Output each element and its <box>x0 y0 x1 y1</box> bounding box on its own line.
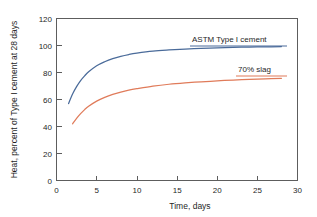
series-label-astm-type-i-cement: ASTM Type I cement <box>192 35 267 44</box>
y-tick-label-40: 40 <box>43 123 52 132</box>
series-line-70-percent-slag <box>73 78 282 124</box>
y-tick-labels: 120 100 80 60 40 20 0 <box>39 15 53 186</box>
y-tick-label-80: 80 <box>43 69 52 78</box>
x-axis-title: Time, days <box>169 201 210 211</box>
series-line-astm-type-i-cement <box>69 47 282 104</box>
x-tick-label-5: 5 <box>95 186 100 195</box>
x-tick-label-15: 15 <box>173 186 182 195</box>
y-tick-label-60: 60 <box>43 96 52 105</box>
y-tick-label-0: 0 <box>48 177 53 186</box>
data-series-group <box>69 47 282 124</box>
y-tick-label-120: 120 <box>39 15 53 24</box>
x-tick-label-10: 10 <box>133 186 142 195</box>
chart-figure: 120 100 80 60 40 20 0 0 5 10 15 20 25 30… <box>0 0 317 217</box>
series-annotations: ASTM Type I cement 70% slag <box>192 35 271 74</box>
x-tick-label-25: 25 <box>253 186 262 195</box>
y-tick-label-100: 100 <box>39 42 53 51</box>
x-tick-label-20: 20 <box>213 186 222 195</box>
series-label-70-percent-slag: 70% slag <box>238 65 271 74</box>
y-axis-title: Heat, percent of Type I cement at 28 day… <box>9 21 19 179</box>
x-axis-ticks <box>57 176 298 181</box>
x-tick-label-30: 30 <box>293 186 302 195</box>
y-axis-ticks <box>57 19 62 181</box>
y-tick-label-20: 20 <box>43 150 52 159</box>
x-tick-labels: 0 5 10 15 20 25 30 <box>54 186 302 195</box>
x-tick-label-0: 0 <box>54 186 59 195</box>
chart-canvas: 120 100 80 60 40 20 0 0 5 10 15 20 25 30… <box>0 0 317 217</box>
